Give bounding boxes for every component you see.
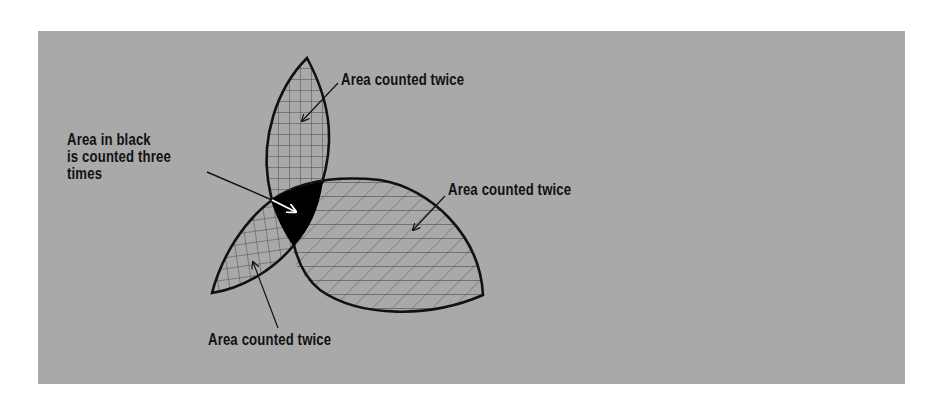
top-petal xyxy=(267,58,330,200)
overlap-diagram xyxy=(0,0,935,403)
label-bottom: Area counted twice xyxy=(208,331,331,348)
label-right: Area counted twice xyxy=(448,181,571,198)
arrow-center-dark xyxy=(207,172,272,200)
label-center: Area in black is counted three times xyxy=(67,131,171,182)
label-top: Area counted twice xyxy=(341,71,464,88)
